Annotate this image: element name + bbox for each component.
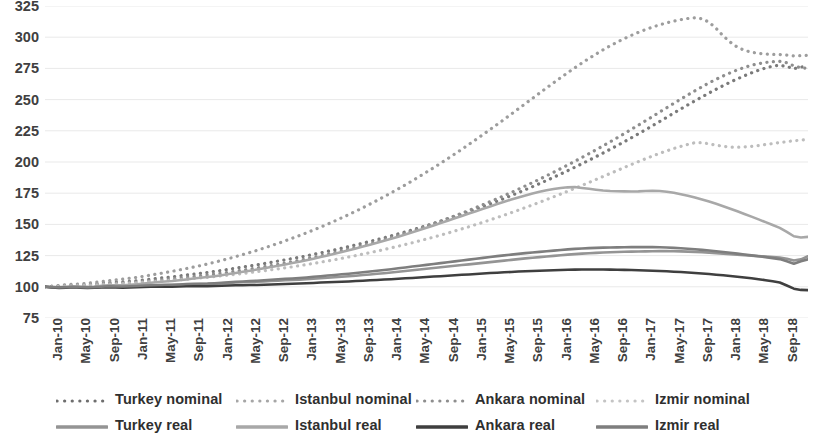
- y-axis: 32530027525022520017515012510075: [0, 0, 42, 324]
- x-axis-tick-label: May-10: [79, 318, 93, 364]
- x-axis-tick-label: Sep-13: [362, 318, 376, 362]
- legend-row: Turkey realIstanbul realAnkara realIzmir…: [0, 412, 814, 438]
- legend-item[interactable]: Istanbul nominal: [236, 391, 388, 407]
- legend-label: Izmir real: [655, 417, 720, 433]
- legend-swatch-icon: [416, 419, 468, 431]
- plot-area: [45, 6, 808, 318]
- legend-label: Istanbul nominal: [295, 391, 412, 407]
- chart-screenshot: 32530027525022520017515012510075 Jan-10M…: [0, 0, 814, 446]
- x-axis-tick-label: Jan-16: [560, 318, 574, 361]
- x-axis-tick-label: Sep-11: [192, 318, 206, 362]
- legend-swatch-icon: [596, 393, 648, 405]
- legend-swatch-icon: [236, 393, 288, 405]
- x-axis-tick-label: Jan-12: [221, 318, 235, 361]
- legend-item[interactable]: Izmir real: [596, 417, 720, 433]
- legend-row: Turkey nominalIstanbul nominalAnkara nom…: [0, 386, 814, 412]
- series-line: [45, 65, 808, 287]
- x-axis-tick-label: Sep-16: [616, 318, 630, 362]
- y-axis-tick-label: 200: [15, 155, 39, 170]
- x-axis-tick-label: Sep-18: [786, 318, 800, 362]
- x-axis-tick-label: Jan-14: [390, 318, 404, 361]
- x-axis-tick-label: May-17: [673, 318, 687, 364]
- y-axis-tick-label: 75: [23, 311, 39, 326]
- x-axis-tick-label: May-15: [503, 318, 517, 364]
- legend-item[interactable]: Ankara nominal: [416, 391, 568, 407]
- y-axis-tick-label: 250: [15, 92, 39, 107]
- series-line: [45, 18, 808, 287]
- x-axis-tick-label: May-14: [418, 318, 432, 364]
- y-axis-tick-label: 275: [15, 61, 39, 76]
- legend-swatch-icon: [416, 393, 468, 405]
- y-axis-tick-label: 100: [15, 280, 39, 295]
- x-axis-tick-label: Sep-10: [108, 318, 122, 362]
- x-axis-tick-label: May-18: [757, 318, 771, 364]
- x-axis-tick-label: Sep-12: [277, 318, 291, 362]
- legend-label: Ankara nominal: [475, 391, 585, 407]
- legend-item[interactable]: Izmir nominal: [596, 391, 750, 407]
- legend-swatch-icon: [236, 419, 288, 431]
- legend-label: Turkey real: [115, 417, 192, 433]
- y-axis-tick-label: 175: [15, 186, 39, 201]
- x-axis-tick-label: May-13: [334, 318, 348, 364]
- y-axis-tick-label: 325: [15, 0, 39, 13]
- x-axis-tick-label: Jan-18: [729, 318, 743, 361]
- y-axis-tick-label: 150: [15, 217, 39, 232]
- x-axis-tick-label: Sep-17: [701, 318, 715, 362]
- legend-item[interactable]: Ankara real: [416, 417, 568, 433]
- x-axis-tick-label: May-11: [164, 318, 178, 363]
- x-axis-tick-label: Jan-17: [644, 318, 658, 361]
- legend-swatch-icon: [56, 393, 108, 405]
- y-axis-tick-label: 225: [15, 124, 39, 139]
- legend-swatch-icon: [596, 419, 648, 431]
- x-axis-tick-label: Jan-15: [475, 318, 489, 361]
- x-axis-tick-label: Sep-14: [447, 318, 461, 362]
- line-chart: [45, 6, 808, 318]
- x-axis-tick-label: May-12: [249, 318, 263, 364]
- chart-legend: Turkey nominalIstanbul nominalAnkara nom…: [0, 386, 814, 444]
- legend-label: Turkey nominal: [115, 391, 223, 407]
- y-axis-tick-label: 125: [15, 248, 39, 263]
- legend-swatch-icon: [56, 419, 108, 431]
- x-axis-tick-label: Jan-10: [51, 318, 65, 361]
- legend-item[interactable]: Istanbul real: [236, 417, 388, 433]
- x-axis-tick-label: Jan-13: [305, 318, 319, 361]
- legend-item[interactable]: Turkey real: [56, 417, 208, 433]
- x-axis: Jan-10May-10Sep-10Jan-11May-11Sep-11Jan-…: [45, 318, 808, 384]
- x-axis-tick-label: Sep-15: [531, 318, 545, 362]
- legend-label: Istanbul real: [295, 417, 382, 433]
- x-axis-tick-label: May-16: [588, 318, 602, 364]
- x-axis-tick-label: Jan-11: [136, 318, 150, 360]
- y-axis-tick-label: 300: [15, 30, 39, 45]
- legend-label: Izmir nominal: [655, 391, 750, 407]
- legend-item[interactable]: Turkey nominal: [56, 391, 208, 407]
- legend-label: Ankara real: [475, 417, 555, 433]
